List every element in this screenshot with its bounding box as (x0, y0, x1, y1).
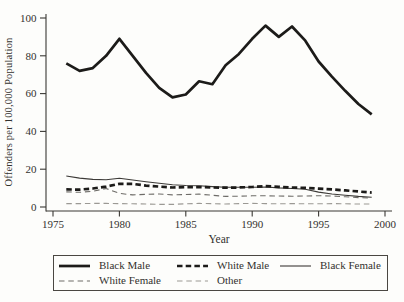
legend-label-white-female: White Female (99, 274, 161, 287)
x-tick-label: 1975 (42, 218, 65, 230)
legend-label-white-male: White Male (217, 259, 269, 272)
black-female-line-swatch (279, 260, 312, 272)
white-male-line-swatch (176, 260, 209, 272)
x-tick-label: 1980 (108, 218, 131, 230)
line-chart-plot: 020406080100 197519801985199019952000 Ye… (0, 0, 404, 252)
legend-label-black-female: Black Female (320, 259, 381, 272)
black-male-line-swatch (58, 260, 91, 272)
legend-item-black-male: Black Male (58, 259, 176, 272)
x-tick-label: 1985 (175, 218, 198, 230)
legend-label-other: Other (217, 274, 242, 287)
chart-legend: Black Male White Male Black Female White… (53, 255, 388, 291)
y-axis-title: Offenders per 100,000 Population (3, 37, 14, 187)
series-line-black-male (66, 26, 371, 115)
series-line-other (66, 203, 371, 204)
x-axis-title: Year (208, 233, 229, 245)
legend-row-2: White Female Other (58, 274, 385, 287)
x-tick-label: 1990 (241, 218, 264, 230)
y-tick-label: 40 (26, 125, 38, 137)
legend-row-1: Black Male White Male Black Female (58, 259, 385, 272)
legend-item-black-female: Black Female (279, 259, 385, 272)
data-series-lines (66, 26, 371, 205)
white-female-line-swatch (58, 275, 91, 287)
axes (46, 14, 392, 212)
other-line-swatch (176, 275, 209, 287)
x-axis-ticks: 197519801985199019952000 (42, 211, 397, 230)
legend-item-white-female: White Female (58, 274, 176, 287)
x-tick-label: 1995 (308, 218, 331, 230)
x-tick-label: 2000 (374, 218, 397, 230)
offender-rate-line-chart-figure: 020406080100 197519801985199019952000 Ye… (0, 0, 404, 302)
y-axis-ticks: 020406080100 (20, 12, 46, 213)
y-tick-label: 60 (26, 87, 38, 99)
y-tick-label: 80 (26, 50, 38, 62)
y-tick-label: 0 (31, 201, 37, 213)
legend-item-white-male: White Male (176, 259, 279, 272)
y-tick-label: 100 (20, 12, 37, 24)
y-tick-label: 20 (26, 163, 38, 175)
legend-item-other: Other (176, 274, 279, 287)
legend-label-black-male: Black Male (99, 259, 150, 272)
